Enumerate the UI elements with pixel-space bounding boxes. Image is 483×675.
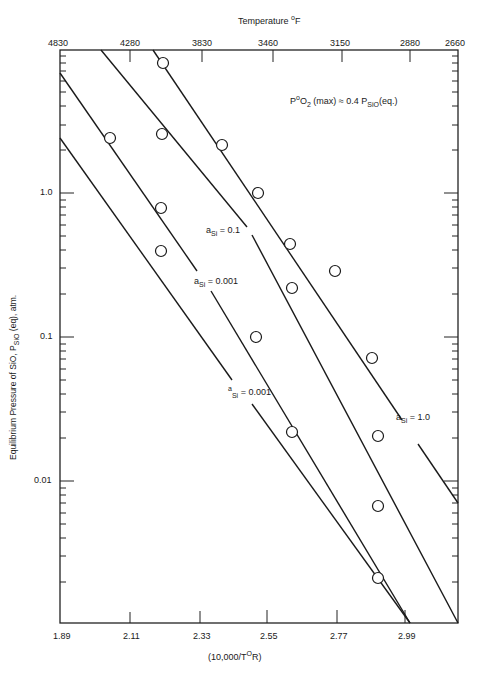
data-point — [217, 140, 228, 151]
annotation-tail: (eq.) — [379, 96, 398, 106]
chart-canvas — [0, 0, 483, 675]
data-point — [253, 188, 264, 199]
top-axis-title: Temperature oF — [238, 14, 300, 26]
x-axis-label-main: (10,000/T — [208, 652, 247, 662]
line-asi-0-001-b-upper — [60, 138, 232, 380]
bottom-axis-ticks — [130, 610, 405, 623]
annotation-rest: (max) ≈ 0.4 P — [311, 96, 367, 106]
series-label-value: = 0.001 — [241, 387, 271, 397]
y-tick-label: 0.01 — [34, 475, 52, 485]
top-tick-label: 4280 — [120, 38, 140, 48]
line-asi-0-001-a-upper — [60, 73, 197, 271]
top-axis-unit: F — [295, 16, 301, 26]
bottom-tick-label: 2.99 — [398, 631, 416, 641]
series-label-value: = 1.0 — [410, 412, 430, 422]
y-axis-label-tail: (eq), atm. — [8, 295, 18, 334]
data-point — [251, 332, 262, 343]
data-point — [158, 58, 169, 69]
line-asi-0-001-b-lower — [252, 404, 410, 623]
series-label-asi-0-1: aSi = 0.1 — [206, 225, 240, 237]
top-tick-label: 2880 — [400, 38, 420, 48]
data-point — [373, 431, 384, 442]
data-point — [285, 239, 296, 250]
top-axis-ticks — [130, 50, 410, 62]
data-point — [105, 133, 116, 144]
annotation-formula: PoO2 (max) ≈ 0.4 PSiO(eq.) — [290, 94, 397, 108]
top-tick-label: 3830 — [192, 38, 212, 48]
bottom-tick-label: 2.55 — [260, 631, 278, 641]
data-point — [287, 427, 298, 438]
series-label-value: = 0.001 — [208, 276, 238, 286]
data-point — [287, 283, 298, 294]
annotation-o: O — [300, 96, 307, 106]
bottom-tick-label: 2.11 — [123, 631, 140, 641]
x-axis-label-unit: R) — [252, 652, 262, 662]
series-label-value: = 0.1 — [220, 225, 240, 235]
data-point — [367, 353, 378, 364]
line-asi-1-0-lower — [418, 444, 458, 503]
series-label-asi-0-001-lower: aSi = 0.001 — [228, 385, 271, 399]
data-point — [156, 203, 167, 214]
data-point — [157, 129, 168, 140]
y-axis-label: Equilibrium Pressure of SiO, PSiO (eq), … — [8, 295, 20, 460]
data-points — [105, 58, 384, 584]
bottom-tick-label: 2.33 — [193, 631, 211, 641]
y-tick-label: 0.1 — [40, 331, 53, 341]
bottom-tick-label: 1.89 — [53, 631, 71, 641]
top-tick-label: 3150 — [330, 38, 350, 48]
y-axis-label-text: Equilibrium Pressure of SiO, P — [8, 345, 18, 460]
data-point — [373, 501, 384, 512]
data-point — [330, 266, 341, 277]
top-axis-title-text: Temperature — [238, 16, 289, 26]
y-tick-label: 1.0 — [40, 187, 53, 197]
series-label-asi-1-0: aSi = 1.0 — [396, 412, 430, 424]
line-asi-0-1-upper — [101, 50, 247, 227]
bottom-tick-label: 2.77 — [330, 631, 348, 641]
data-point — [156, 246, 167, 257]
top-tick-label: 3460 — [258, 38, 278, 48]
y-axis-label-sub: SiO — [13, 334, 20, 346]
right-axis-ticks — [444, 56, 458, 582]
top-tick-label: 2660 — [445, 38, 465, 48]
series-label-asi-0-001-upper: aSi = 0.001 — [194, 276, 238, 288]
annotation-sub: SiO — [367, 101, 379, 108]
top-tick-label: 4830 — [48, 38, 68, 48]
left-axis-ticks — [60, 56, 74, 582]
line-asi-0-1-lower — [252, 235, 458, 623]
data-point — [373, 573, 384, 584]
x-axis-label: (10,000/TOR) — [208, 650, 261, 662]
